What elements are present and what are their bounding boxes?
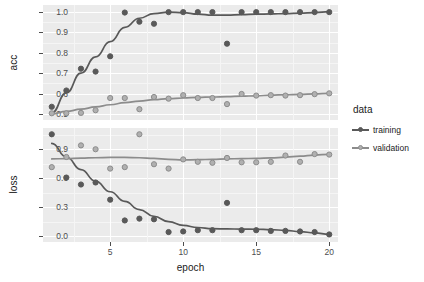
data-point bbox=[224, 102, 229, 107]
data-point bbox=[312, 10, 317, 15]
legend-key-validation-icon bbox=[352, 141, 369, 154]
legend-label-validation: validation bbox=[373, 143, 409, 153]
data-point bbox=[166, 10, 171, 15]
data-point bbox=[181, 229, 186, 234]
data-point bbox=[78, 143, 83, 148]
legend-item-training[interactable]: training bbox=[352, 122, 424, 137]
data-point bbox=[195, 159, 200, 164]
data-point bbox=[49, 132, 54, 137]
data-point bbox=[122, 165, 127, 170]
data-point bbox=[181, 93, 186, 98]
data-point bbox=[49, 165, 54, 170]
data-point bbox=[254, 228, 259, 233]
data-point bbox=[297, 93, 302, 98]
data-point bbox=[49, 104, 54, 109]
data-point bbox=[297, 229, 302, 234]
data-point bbox=[210, 160, 215, 165]
data-point bbox=[93, 180, 98, 185]
data-point bbox=[254, 93, 259, 98]
data-point bbox=[64, 111, 69, 116]
data-point bbox=[166, 229, 171, 234]
legend-label-training: training bbox=[373, 125, 401, 135]
data-point bbox=[93, 147, 98, 152]
data-point bbox=[108, 95, 113, 100]
data-point bbox=[210, 228, 215, 233]
data-point bbox=[93, 69, 98, 74]
data-point bbox=[239, 10, 244, 15]
data-point bbox=[137, 19, 142, 24]
data-point bbox=[195, 10, 200, 15]
data-point bbox=[283, 93, 288, 98]
data-point bbox=[268, 10, 273, 15]
data-point bbox=[122, 218, 127, 223]
data-point bbox=[49, 111, 54, 116]
data-point bbox=[93, 108, 98, 113]
data-point bbox=[151, 162, 156, 167]
data-point bbox=[297, 159, 302, 164]
data-point bbox=[268, 93, 273, 98]
data-point bbox=[210, 95, 215, 100]
data-point bbox=[327, 232, 332, 237]
data-point bbox=[283, 228, 288, 233]
data-point bbox=[78, 182, 83, 187]
data-point bbox=[64, 175, 69, 180]
data-point bbox=[327, 152, 332, 157]
legend-key-training-icon bbox=[352, 123, 369, 136]
data-point bbox=[312, 229, 317, 234]
legend: data training validation bbox=[352, 104, 424, 158]
data-point bbox=[239, 228, 244, 233]
data-point bbox=[137, 107, 142, 112]
data-point bbox=[108, 166, 113, 171]
x-axis-title: epoch bbox=[43, 262, 338, 273]
data-point bbox=[312, 92, 317, 97]
data-point bbox=[327, 91, 332, 96]
chart-root: 0.50.60.70.80.91.0acc0.00.30.60.9loss510… bbox=[0, 0, 424, 282]
data-point bbox=[239, 91, 244, 96]
data-point bbox=[78, 110, 83, 115]
data-point bbox=[210, 10, 215, 15]
data-point bbox=[64, 88, 69, 93]
data-point bbox=[224, 200, 229, 205]
data-point bbox=[137, 216, 142, 221]
data-point bbox=[327, 10, 332, 15]
legend-item-validation[interactable]: validation bbox=[352, 140, 424, 155]
data-point bbox=[254, 10, 259, 15]
data-point bbox=[122, 10, 127, 15]
data-point bbox=[239, 160, 244, 165]
data-point bbox=[181, 10, 186, 15]
data-point bbox=[268, 159, 273, 164]
data-point bbox=[268, 228, 273, 233]
data-point bbox=[137, 132, 142, 137]
data-point bbox=[283, 153, 288, 158]
data-point bbox=[254, 160, 259, 165]
data-point bbox=[78, 66, 83, 71]
legend-title: data bbox=[353, 104, 424, 115]
data-point bbox=[166, 96, 171, 101]
data-point bbox=[166, 166, 171, 171]
data-point bbox=[151, 94, 156, 99]
data-point bbox=[122, 95, 127, 100]
data-point bbox=[224, 155, 229, 160]
data-point bbox=[151, 21, 156, 26]
data-point bbox=[224, 41, 229, 46]
data-point bbox=[151, 217, 156, 222]
data-point bbox=[108, 197, 113, 202]
data-point bbox=[64, 154, 69, 159]
data-point bbox=[297, 10, 302, 15]
data-point bbox=[283, 10, 288, 15]
data-point bbox=[195, 228, 200, 233]
data-point bbox=[195, 95, 200, 100]
data-point bbox=[108, 54, 113, 59]
data-point bbox=[181, 157, 186, 162]
data-point bbox=[312, 151, 317, 156]
